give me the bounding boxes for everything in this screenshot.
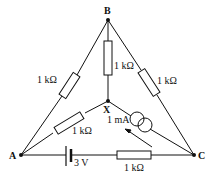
resistor-a-b bbox=[59, 72, 80, 98]
current-source-label: 1 mA bbox=[107, 114, 130, 125]
node-b-dot bbox=[106, 18, 110, 22]
resistor-a-x-label: 1 kΩ bbox=[72, 125, 92, 136]
resistor-b-x bbox=[104, 41, 112, 75]
node-a-dot bbox=[19, 153, 23, 157]
resistor-a-b-label: 1 kΩ bbox=[37, 74, 57, 85]
node-a-label: A bbox=[9, 150, 17, 161]
node-x-dot bbox=[106, 99, 110, 103]
battery bbox=[66, 146, 71, 166]
resistor-a-c-label: 1 kΩ bbox=[124, 162, 144, 173]
battery-label: 3 V bbox=[74, 157, 89, 168]
circuit-diagram: B A C X 1 kΩ 1 kΩ 1 kΩ 1 kΩ 1 mA 3 V 1 k… bbox=[0, 0, 210, 176]
node-c-label: C bbox=[198, 150, 205, 161]
node-c-dot bbox=[192, 153, 196, 157]
resistor-a-c bbox=[117, 151, 151, 159]
resistor-b-c-label: 1 kΩ bbox=[157, 75, 177, 86]
current-source bbox=[130, 112, 152, 132]
node-b-label: B bbox=[104, 5, 111, 16]
resistor-b-x-label: 1 kΩ bbox=[114, 60, 134, 71]
